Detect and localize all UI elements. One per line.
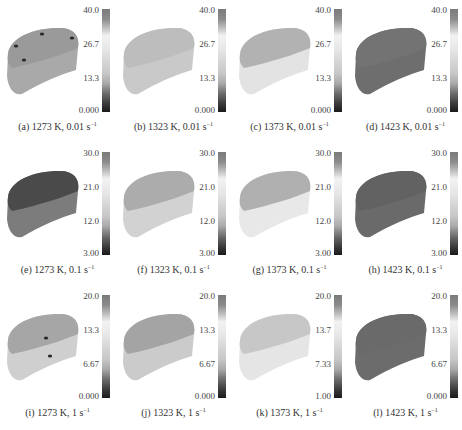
colorbar-tick-label: 21.0 — [315, 183, 331, 192]
colorbar-min-label: 0.000 — [427, 392, 447, 401]
colorbar-max-label: 30.0 — [315, 149, 331, 158]
colorbar — [102, 9, 110, 112]
half-cylinder-shape — [118, 10, 198, 100]
figure-panel-b: 40.0 26.7 13.3 0.000 (b) 1323 K, 0.01 s−… — [116, 0, 231, 143]
figure-panel-i: 20.0 13.3 6.67 0.000 (i) 1273 K, 1 s−1 — [0, 286, 115, 429]
specimen-contour — [234, 153, 314, 243]
figure-panel-f: 30.0 21.0 12.0 3.00 (f) 1323 K, 0.1 s−1 — [116, 143, 231, 286]
colorbar-min-label: 0.000 — [311, 106, 331, 115]
figure-panel-l: 20.0 13.3 6.67 0.000 (l) 1423 K, 1 s−1 — [348, 286, 462, 429]
colorbar-tick-label: 12.0 — [315, 217, 331, 226]
defect-spot-icon — [48, 354, 52, 357]
panel-caption: (b) 1323 K, 0.01 s−1 — [116, 121, 231, 132]
colorbar-tick-label: 26.7 — [315, 40, 331, 49]
colorbar — [334, 152, 342, 255]
colorbar-tick-label: 13.3 — [199, 74, 215, 83]
colorbar-max-label: 20.0 — [199, 292, 215, 301]
figure-panel-c: 40.0 26.7 13.3 0.000 (c) 1373 K, 0.01 s−… — [232, 0, 347, 143]
colorbar — [450, 152, 458, 255]
colorbar — [102, 295, 110, 398]
colorbar-max-label: 40.0 — [199, 6, 215, 15]
colorbar-min-label: 0.000 — [195, 392, 215, 401]
colorbar — [218, 295, 226, 398]
defect-spot-icon — [40, 32, 44, 35]
specimen-contour — [234, 10, 314, 100]
specimen-contour — [118, 296, 198, 386]
colorbar-max-label: 20.0 — [431, 292, 447, 301]
colorbar-max-label: 20.0 — [315, 292, 331, 301]
figure-panel-a: 40.0 26.7 13.3 0.000 (a) 1273 K, 0.01 s−… — [0, 0, 115, 143]
figure-panel-h: 30.0 21.0 12.0 3.00 (h) 1423 K, 0.1 s−1 — [348, 143, 462, 286]
colorbar-tick-label: 13.3 — [431, 74, 447, 83]
colorbar-tick-label: 6.67 — [431, 360, 447, 369]
colorbar-tick-label: 12.0 — [199, 217, 215, 226]
specimen-contour — [2, 296, 82, 386]
colorbar — [102, 152, 110, 255]
colorbar-max-label: 30.0 — [431, 149, 447, 158]
colorbar-min-label: 0.000 — [195, 106, 215, 115]
specimen-contour — [350, 153, 430, 243]
half-cylinder-shape — [350, 10, 430, 100]
figure-panel-k: 20.0 13.7 7.33 1.00 (k) 1373 K, 1 s−1 — [232, 286, 347, 429]
colorbar-min-label: 1.00 — [315, 392, 331, 401]
specimen-contour — [2, 153, 82, 243]
colorbar-tick-label: 26.7 — [199, 40, 215, 49]
colorbar-tick-label: 7.33 — [315, 360, 331, 369]
colorbar-tick-label: 21.0 — [199, 183, 215, 192]
colorbar-min-label: 0.000 — [79, 106, 99, 115]
colorbar-tick-label: 26.7 — [431, 40, 447, 49]
colorbar-max-label: 30.0 — [83, 149, 99, 158]
panel-caption: (i) 1273 K, 1 s−1 — [0, 407, 115, 418]
colorbar-tick-label: 13.3 — [83, 326, 99, 335]
half-cylinder-shape — [234, 296, 314, 386]
specimen-contour — [350, 296, 430, 386]
colorbar-max-label: 20.0 — [83, 292, 99, 301]
figure-panel-e: 30.0 21.0 12.0 3.00 (e) 1273 K, 0.1 s−1 — [0, 143, 115, 286]
colorbar-min-label: 3.00 — [431, 249, 447, 258]
colorbar-tick-label: 6.67 — [199, 360, 215, 369]
colorbar-max-label: 40.0 — [83, 6, 99, 15]
defect-spot-icon — [70, 36, 74, 39]
colorbar — [334, 295, 342, 398]
colorbar-max-label: 30.0 — [199, 149, 215, 158]
colorbar-min-label: 3.00 — [83, 249, 99, 258]
figure-panel-g: 30.0 21.0 12.0 3.00 (g) 1373 K, 0.1 s−1 — [232, 143, 347, 286]
specimen-contour — [2, 10, 82, 100]
defect-spot-icon — [44, 336, 48, 339]
colorbar-tick-label: 26.7 — [83, 40, 99, 49]
panel-caption: (j) 1323 K, 1 s−1 — [116, 407, 231, 418]
figure-panel-d: 40.0 26.7 13.3 0.000 (d) 1423 K, 0.01 s−… — [348, 0, 462, 143]
colorbar-tick-label: 6.67 — [83, 360, 99, 369]
half-cylinder-shape — [118, 296, 198, 386]
half-cylinder-shape — [2, 296, 82, 386]
panel-caption: (h) 1423 K, 0.1 s−1 — [348, 264, 462, 275]
colorbar — [450, 295, 458, 398]
panel-caption: (g) 1373 K, 0.1 s−1 — [232, 264, 347, 275]
figure-grid: 40.0 26.7 13.3 0.000 (a) 1273 K, 0.01 s−… — [0, 0, 462, 430]
specimen-contour — [118, 10, 198, 100]
colorbar — [218, 152, 226, 255]
colorbar-min-label: 0.000 — [427, 106, 447, 115]
colorbar-tick-label: 12.0 — [83, 217, 99, 226]
colorbar-tick-label: 21.0 — [431, 183, 447, 192]
panel-caption: (e) 1273 K, 0.1 s−1 — [0, 264, 115, 275]
colorbar-tick-label: 13.3 — [199, 326, 215, 335]
panel-caption: (c) 1373 K, 0.01 s−1 — [232, 121, 347, 132]
colorbar — [334, 9, 342, 112]
colorbar-tick-label: 21.0 — [83, 183, 99, 192]
panel-caption: (f) 1323 K, 0.1 s−1 — [116, 264, 231, 275]
colorbar-tick-label: 13.3 — [83, 74, 99, 83]
panel-caption: (l) 1423 K, 1 s−1 — [348, 407, 462, 418]
specimen-contour — [350, 10, 430, 100]
defect-spot-icon — [14, 44, 18, 47]
colorbar — [218, 9, 226, 112]
colorbar-min-label: 3.00 — [199, 249, 215, 258]
colorbar-min-label: 0.000 — [79, 392, 99, 401]
colorbar-max-label: 40.0 — [431, 6, 447, 15]
colorbar-max-label: 40.0 — [315, 6, 331, 15]
colorbar-tick-label: 13.3 — [315, 74, 331, 83]
panel-caption: (d) 1423 K, 0.01 s−1 — [348, 121, 462, 132]
half-cylinder-shape — [350, 153, 430, 243]
half-cylinder-shape — [2, 153, 82, 243]
colorbar-tick-label: 13.3 — [431, 326, 447, 335]
